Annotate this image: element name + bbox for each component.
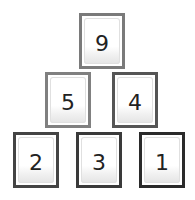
tile-number: 9	[95, 33, 109, 55]
tile-number: 5	[61, 92, 75, 114]
tile-bottom-center[interactable]: 3	[76, 132, 122, 188]
tile-face: 5	[50, 77, 86, 123]
tile-face: 3	[81, 137, 117, 183]
tile-bottom-right[interactable]: 1	[139, 132, 185, 188]
tile-number: 3	[92, 152, 106, 174]
tile-face: 2	[18, 137, 54, 183]
tile-face: 4	[117, 77, 153, 123]
tile-middle-left[interactable]: 5	[45, 72, 91, 128]
tile-bottom-left[interactable]: 2	[13, 132, 59, 188]
tile-face: 1	[144, 137, 180, 183]
tile-number: 1	[155, 152, 169, 174]
tile-top[interactable]: 9	[79, 13, 125, 69]
tile-number: 2	[29, 152, 43, 174]
tile-number: 4	[128, 92, 142, 114]
tile-middle-right[interactable]: 4	[112, 72, 158, 128]
tile-face: 9	[84, 18, 120, 64]
